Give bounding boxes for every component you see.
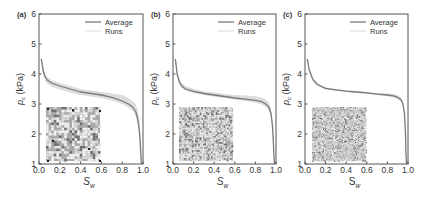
y-tick-label: 5 <box>31 39 36 49</box>
x-tick-label: 0.6 <box>229 165 241 175</box>
x-tick-label: 0.4 <box>208 165 220 175</box>
x-tick-label: 1.0 <box>137 165 149 175</box>
porous-media-inset <box>179 107 233 161</box>
legend-runs-label: Runs <box>238 27 256 36</box>
y-tick-label: 4 <box>297 69 302 79</box>
y-tick-label: 6 <box>165 9 170 19</box>
x-tick-label: 0.8 <box>381 165 393 175</box>
x-tick-label: 1.0 <box>270 165 282 175</box>
panel-label: (b) <box>151 10 161 19</box>
legend: AverageRuns <box>350 18 398 36</box>
x-tick-label: 1.0 <box>402 165 414 175</box>
x-tick-label: 0.6 <box>361 165 373 175</box>
y-tick-label: 6 <box>31 9 36 19</box>
y-tick-label: 2 <box>165 129 170 139</box>
y-tick-label: 4 <box>31 69 36 79</box>
legend-runs-label: Runs <box>370 27 388 36</box>
porous-media-inset <box>46 107 101 162</box>
panel-b: 1234560.00.20.40.60.81.0(b)Swpc (kPa)Ave… <box>149 9 282 189</box>
x-axis-label: Sw <box>217 176 230 189</box>
x-tick-label: 0.0 <box>167 165 179 175</box>
x-tick-label: 0.2 <box>320 165 332 175</box>
y-tick-label: 3 <box>31 99 36 109</box>
x-tick-label: 0.0 <box>299 165 311 175</box>
x-tick-label: 0.4 <box>340 165 352 175</box>
x-tick-label: 0.8 <box>116 165 128 175</box>
y-tick-label: 3 <box>165 99 170 109</box>
panel-label: (a) <box>17 10 27 19</box>
y-axis-label: pc (kPa) <box>15 73 26 106</box>
y-axis-label: pc (kPa) <box>281 73 292 106</box>
y-tick-label: 5 <box>297 39 302 49</box>
x-tick-label: 0.6 <box>95 165 107 175</box>
legend-runs-label: Runs <box>105 27 123 36</box>
figure-canvas: 1234560.00.20.40.60.81.0(a)Swpc (kPa)Ave… <box>0 0 428 197</box>
x-tick-label: 0.8 <box>249 165 261 175</box>
panel-label: (c) <box>283 10 293 19</box>
legend-average-label: Average <box>105 18 133 27</box>
legend: AverageRuns <box>85 18 133 36</box>
y-tick-label: 4 <box>165 69 170 79</box>
y-tick-label: 6 <box>297 9 302 19</box>
panel-c: 1234560.00.20.40.60.81.0(c)Swpc (kPa)Ave… <box>281 9 414 189</box>
y-tick-label: 2 <box>297 129 302 139</box>
x-tick-label: 0.4 <box>75 165 87 175</box>
x-axis-label: Sw <box>83 176 96 189</box>
y-tick-label: 5 <box>165 39 170 49</box>
legend-average-label: Average <box>238 18 266 27</box>
x-tick-label: 0.0 <box>33 165 45 175</box>
x-tick-label: 0.2 <box>54 165 66 175</box>
y-axis-label: pc (kPa) <box>149 73 160 106</box>
x-axis-label: Sw <box>349 176 362 189</box>
porous-media-inset <box>312 107 367 162</box>
y-tick-label: 2 <box>31 129 36 139</box>
capillary-pressure-figure: 1234560.00.20.40.60.81.0(a)Swpc (kPa)Ave… <box>0 0 428 197</box>
x-tick-label: 0.2 <box>188 165 200 175</box>
panel-a: 1234560.00.20.40.60.81.0(a)Swpc (kPa)Ave… <box>15 9 149 189</box>
y-tick-label: 3 <box>297 99 302 109</box>
legend-average-label: Average <box>370 18 398 27</box>
legend: AverageRuns <box>218 18 266 36</box>
